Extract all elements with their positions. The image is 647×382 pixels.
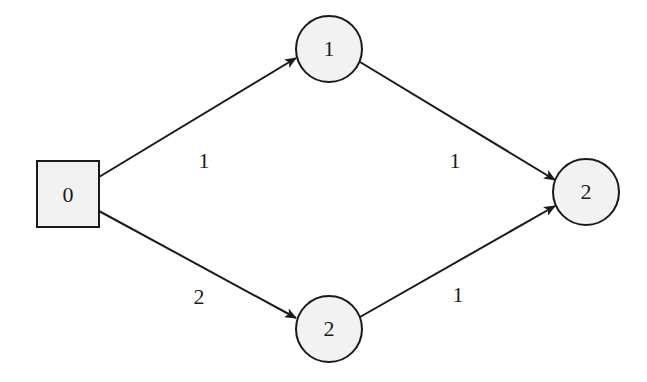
edge-label-2-2: 1 xyxy=(453,282,464,307)
node-0: 0 xyxy=(37,161,99,227)
node-label: 0 xyxy=(63,182,74,207)
node-label: 1 xyxy=(324,36,335,61)
node-label: 2 xyxy=(324,316,335,341)
edge-label-0-1: 1 xyxy=(199,148,210,173)
edge-0-to-1 xyxy=(99,58,296,177)
node-label: 2 xyxy=(581,179,592,204)
edge-label-0-2: 2 xyxy=(194,284,205,309)
graph-diagram: 1 2 1 1 0 1 2 2 xyxy=(0,0,647,382)
node-2-right: 2 xyxy=(553,159,619,225)
edge-label-1-2: 1 xyxy=(450,148,461,173)
node-2-bottom: 2 xyxy=(296,296,362,362)
node-1-top: 1 xyxy=(296,16,362,82)
edges xyxy=(99,58,555,318)
